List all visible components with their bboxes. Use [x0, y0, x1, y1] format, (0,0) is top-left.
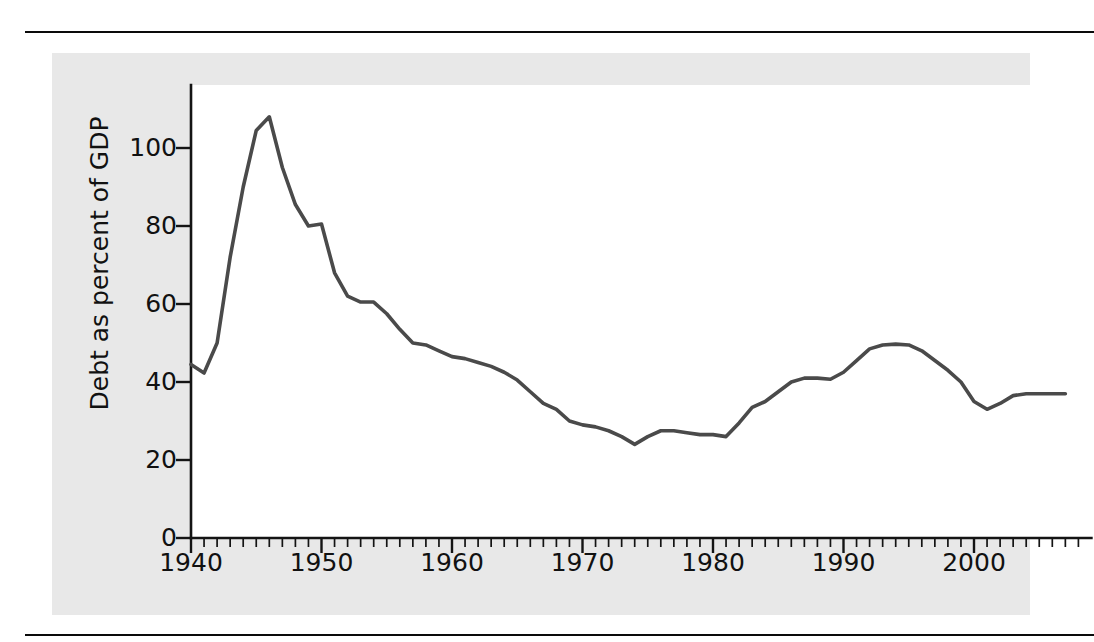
data-series-line — [191, 117, 1065, 445]
chart-ticks — [176, 148, 1078, 553]
chart-axes — [191, 85, 1091, 538]
chart-canvas — [52, 53, 1030, 615]
page-rule-bottom — [25, 634, 1094, 636]
page-rule-top — [25, 31, 1094, 33]
figure-panel: Debt as percent of GDP 020406080100 1940… — [52, 53, 1030, 615]
